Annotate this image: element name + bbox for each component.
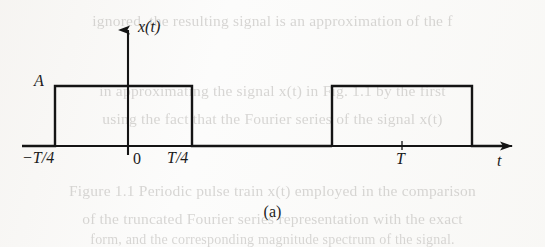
x-tick-label-quarter-T: T/4 xyxy=(167,149,188,167)
pulse-waveform-second xyxy=(332,86,508,146)
pulse-waveform-first xyxy=(22,86,332,146)
signal-label-text: x(t) xyxy=(138,18,160,35)
amplitude-label: A xyxy=(34,72,44,90)
figure-container: ignored, the resulting signal is an appr… xyxy=(0,0,545,247)
x-tick-label-neg-quarter-T: −T/4 xyxy=(22,149,54,167)
x-tick-label-zero: 0 xyxy=(133,150,141,168)
figure-caption: (a) xyxy=(0,203,545,221)
time-axis-label: t xyxy=(497,152,501,170)
signal-label: x(t) xyxy=(138,18,160,36)
x-tick-label-T: T xyxy=(396,150,405,168)
